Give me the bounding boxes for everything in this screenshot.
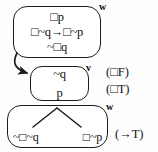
formula-not-box-q: ~□q: [47, 40, 67, 55]
annotation-box-f: (□F): [106, 65, 129, 80]
formula-branch-left: ~□~q: [13, 130, 38, 145]
world-box-v[interactable]: ~q p: [30, 66, 89, 101]
formula-branch-right: □~p: [83, 130, 102, 145]
annotation-box-t: (□T): [106, 82, 130, 97]
world-box-w-top[interactable]: □p □~q→□~p ~□q: [13, 6, 101, 58]
world-label-w-bottom: w: [106, 101, 113, 112]
world-label-v: v: [86, 62, 91, 73]
world-box-w-bottom[interactable]: ~□~q □~p: [7, 105, 108, 148]
annotation-arrow-t: (→T): [115, 127, 143, 142]
formula-p: p: [56, 84, 62, 102]
formula-box-notq-implies-box-notp: □~q→□~p: [31, 25, 83, 40]
world-label-w-top: w: [99, 1, 106, 12]
formula-box-p: □p: [50, 10, 63, 25]
tableau-diagram: □p □~q→□~p ~□q w ~q p v (□F) (□T) ~□~q □…: [0, 0, 158, 152]
formula-not-q: ~q: [53, 65, 66, 83]
branch-row: ~□~q □~p: [8, 130, 107, 145]
